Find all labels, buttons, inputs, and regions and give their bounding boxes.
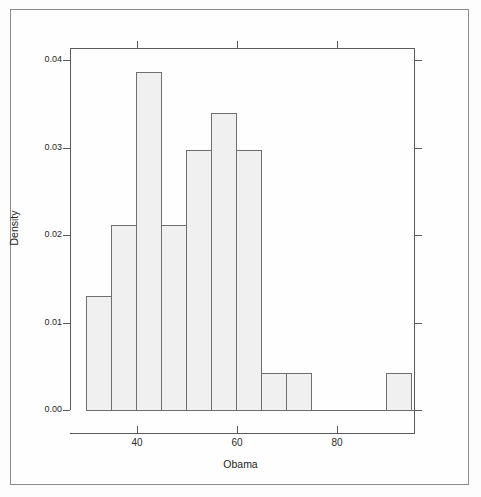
- x-axis-tick-top: [237, 41, 238, 48]
- histogram-bar: [136, 72, 162, 411]
- histogram-bar: [286, 373, 312, 411]
- y-axis-tick-label: 0.01: [14, 318, 62, 327]
- y-axis-tick-label: 0.00: [14, 405, 62, 414]
- y-axis-tick-label-text: 0.01: [20, 318, 62, 327]
- histogram-bar: [111, 225, 137, 412]
- histogram-bar: [86, 296, 112, 411]
- x-axis-tick: [137, 426, 138, 433]
- y-axis-tick: [63, 410, 70, 411]
- y-axis-title: Density: [8, 188, 20, 268]
- histogram-bar: [261, 373, 287, 411]
- y-axis-tick-label-text: 0.00: [20, 405, 62, 414]
- y-axis-tick-right: [415, 235, 422, 236]
- histogram-bar: [211, 113, 237, 412]
- x-axis-tick: [237, 426, 238, 433]
- y-axis-tick: [63, 148, 70, 149]
- y-axis-tick-label-text: 0.04: [20, 55, 62, 64]
- x-axis-tick-label: 80: [317, 437, 357, 449]
- histogram-bars: [0, 0, 481, 497]
- x-axis-title: Obama: [0, 458, 481, 470]
- y-axis-tick-label-text: 0.03: [20, 143, 62, 152]
- y-axis-tick-label: 0.02: [14, 230, 62, 239]
- histogram-bar: [386, 373, 412, 411]
- histogram-bar: [236, 150, 262, 411]
- y-axis-tick: [63, 60, 70, 61]
- histogram-bar: [186, 150, 212, 411]
- x-axis-tick-label: 40: [117, 437, 157, 449]
- histogram-figure: 0.000.010.020.030.04 406080 Obama Densit…: [0, 0, 481, 497]
- y-axis-tick-label: 0.04: [14, 55, 62, 64]
- y-axis-tick-right: [415, 60, 422, 61]
- y-axis-tick-label-text: 0.02: [20, 230, 62, 239]
- x-axis-tick-label: 60: [217, 437, 257, 449]
- x-axis-tick-top: [137, 41, 138, 48]
- y-axis-tick: [63, 235, 70, 236]
- y-axis-tick-label: 0.03: [14, 143, 62, 152]
- y-axis-tick-right: [415, 323, 422, 324]
- histogram-bar: [161, 225, 187, 412]
- y-axis-tick: [63, 323, 70, 324]
- x-axis-tick-top: [337, 41, 338, 48]
- y-axis-tick-right: [415, 410, 422, 411]
- y-axis-tick-right: [415, 148, 422, 149]
- x-axis-tick: [337, 426, 338, 433]
